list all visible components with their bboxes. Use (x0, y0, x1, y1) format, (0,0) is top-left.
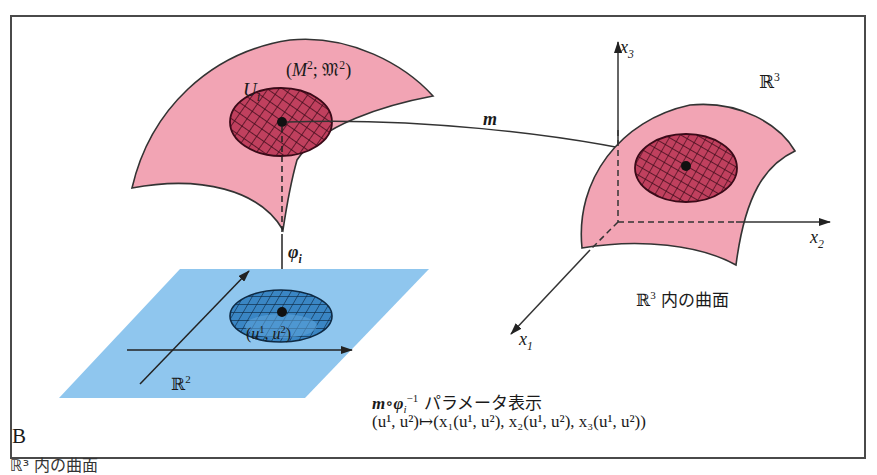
image-point (681, 161, 691, 171)
axis-x3-label: x3 (620, 38, 634, 60)
plane-point (277, 307, 287, 317)
manifold-point (277, 117, 287, 127)
axis-x1 (511, 250, 590, 334)
chart-map-label: φi (288, 243, 302, 265)
axis-x2-label: x2 (810, 228, 824, 250)
panel-letter: B (12, 426, 26, 447)
axis-x1-label: x1 (519, 330, 533, 352)
chart-domain-label: Ui (243, 80, 260, 103)
caption-below: ℝ³ 内の曲面 (10, 458, 98, 474)
space-label: ℝ3 (759, 72, 780, 91)
parametrization-formula: (u¹, u²)↦(x₁(u¹, u²), x₂(u¹, u²), x₃(u¹,… (372, 413, 646, 430)
surface-caption: ℝ3 内の曲面 (636, 290, 729, 309)
plane-label: ℝ2 (171, 374, 191, 393)
plane-point-label: (u1, u2) (246, 325, 291, 342)
manifold-label: (M2; 𝔐2) (286, 60, 351, 79)
embedding-label: m (483, 110, 497, 128)
